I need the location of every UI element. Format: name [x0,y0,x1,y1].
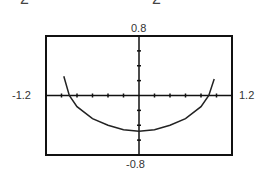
graph-window [0,0,257,173]
axes [46,36,232,155]
